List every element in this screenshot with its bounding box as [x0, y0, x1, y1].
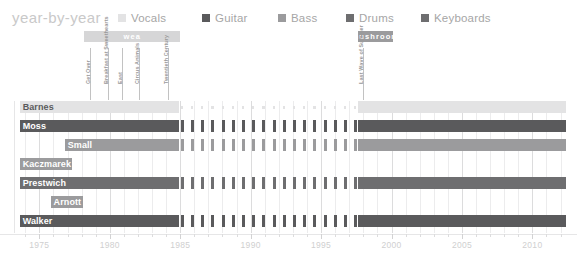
bar-dash	[242, 106, 244, 109]
bar-dash	[211, 106, 213, 109]
axis-tick-minor	[138, 234, 139, 237]
member-name-label: Small	[68, 141, 93, 150]
axis-tick-minor	[561, 234, 562, 237]
member-name-label: Prestwich	[23, 179, 66, 188]
axis-tick-label: 2005	[452, 240, 472, 250]
legend-swatch-icon	[421, 14, 429, 22]
x-axis: 19751980198519901995200020052010	[0, 234, 577, 266]
bar-dash	[283, 215, 286, 227]
member-row[interactable]	[0, 101, 577, 113]
bar-dash	[201, 120, 204, 132]
legend-item-guitar[interactable]: Guitar	[202, 11, 248, 25]
bar-dash	[232, 139, 235, 151]
bar-dash	[273, 139, 276, 151]
bar-dash	[252, 106, 254, 109]
bar-dash	[344, 139, 347, 151]
legend-label: Guitar	[215, 12, 248, 24]
axis-tick-minor	[279, 234, 280, 237]
bar-dash	[181, 106, 183, 109]
axis-tick-minor	[434, 234, 435, 237]
member-name-label: Kaczmarek	[23, 160, 71, 169]
axis-tick-minor	[406, 234, 407, 237]
bar-dash	[242, 120, 245, 132]
axis-tick-minor	[546, 234, 547, 237]
bar-segment-solid	[358, 101, 566, 113]
axis-tick-minor	[68, 234, 69, 237]
bar-dash	[273, 106, 275, 109]
axis-tick-label: 1975	[29, 240, 49, 250]
bar-dash	[201, 106, 203, 109]
bar-dash	[334, 139, 337, 151]
bar-dash	[211, 177, 214, 189]
page-title: year-by-year	[12, 9, 101, 26]
legend-item-drums[interactable]: Drums	[346, 11, 394, 25]
bar-dash	[211, 215, 214, 227]
member-row[interactable]	[0, 196, 577, 208]
axis-tick-minor	[208, 234, 209, 237]
member-row[interactable]	[0, 120, 577, 132]
axis-tick-label: 1995	[311, 240, 331, 250]
axis-tick-major	[110, 234, 111, 239]
bar-dash	[303, 106, 305, 109]
bar-dash	[211, 139, 214, 151]
axis-tick-label: 1980	[100, 240, 120, 250]
bar-dash	[242, 215, 245, 227]
annotation-label: Twentieth Century	[163, 35, 169, 84]
bar-dash	[344, 215, 347, 227]
legend-item-keyboards[interactable]: Keyboards	[421, 11, 491, 25]
bar-dash	[303, 139, 306, 151]
member-row[interactable]	[0, 215, 577, 227]
member-row[interactable]	[0, 177, 577, 189]
plot-area: BarnesMossSmallKaczmarekPrestwichArnottW…	[0, 101, 577, 233]
axis-tick-major	[462, 234, 463, 239]
bar-dash	[313, 106, 315, 109]
annotation-label: East	[117, 72, 123, 84]
legend-swatch-icon	[202, 14, 210, 22]
annotation-label: Circus Animals	[134, 43, 140, 84]
axis-tick-label: 1985	[170, 240, 190, 250]
axis-tick-minor	[349, 234, 350, 237]
bar-dash	[242, 139, 245, 151]
bar-segment-solid	[358, 177, 566, 189]
bar-dash	[273, 215, 276, 227]
legend-label: Keyboards	[434, 12, 491, 24]
legend-item-bass[interactable]: Bass	[278, 11, 317, 25]
bar-dash	[191, 106, 193, 109]
bar-dash	[283, 120, 286, 132]
axis-tick-minor	[194, 234, 195, 237]
axis-tick-minor	[82, 234, 83, 237]
bar-dash	[222, 106, 224, 109]
axis-tick-minor	[476, 234, 477, 237]
bar-dash	[191, 139, 194, 151]
axis-tick-minor	[293, 234, 294, 237]
bar-dash	[222, 177, 225, 189]
axis-tick-minor	[124, 234, 125, 237]
axis-tick-label: 2010	[522, 240, 542, 250]
bar-dash	[283, 139, 286, 151]
bar-dash	[313, 139, 316, 151]
bar-dash	[293, 139, 296, 151]
bar-dash	[334, 106, 336, 109]
era-band-label: wea	[124, 32, 141, 41]
axis-tick-label: 1990	[241, 240, 261, 250]
bar-segment-dashed	[179, 177, 358, 189]
bar-dash	[262, 177, 265, 189]
bar-dash	[283, 177, 286, 189]
bar-dash	[354, 106, 356, 109]
bar-dash	[283, 106, 285, 109]
axis-tick-minor	[307, 234, 308, 237]
member-row[interactable]	[0, 158, 577, 170]
legend-label: Drums	[359, 12, 394, 24]
bar-dash	[324, 120, 327, 132]
bar-dash	[181, 139, 184, 151]
bar-dash	[262, 215, 265, 227]
bar-dash	[211, 120, 214, 132]
year-by-year-chart: year-by-year VocalsGuitarBassDrumsKeyboa…	[0, 0, 577, 266]
legend-item-vocals[interactable]: Vocals	[118, 11, 166, 25]
axis-tick-major	[532, 234, 533, 239]
legend-swatch-icon	[118, 14, 126, 22]
bar-dash	[303, 120, 306, 132]
legend-swatch-icon	[278, 14, 286, 22]
bar-dash	[201, 139, 204, 151]
bar-segment-solid	[358, 139, 566, 151]
